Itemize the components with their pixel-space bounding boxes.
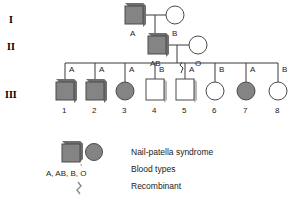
legend-affected-square — [62, 144, 80, 162]
individual-III-3-blood-type: A — [129, 65, 135, 74]
individual-I-1-blood-type: A — [130, 29, 136, 38]
individual-III-2-number: 2 — [92, 106, 97, 115]
individual-III-6-number: 6 — [212, 106, 217, 115]
legend-entry-recombinant: Recombinant — [131, 181, 182, 191]
individual-I-1-square — [125, 6, 143, 24]
legend-recombinant-squiggle-icon — [77, 182, 81, 194]
individual-III-3-circle — [116, 82, 134, 100]
individual-III-7-blood-type: A — [250, 65, 256, 74]
individual-III-6-circle — [206, 82, 224, 100]
individual-I-2-blood-type: B — [172, 29, 177, 38]
individual-III-7: A 7 — [237, 63, 256, 115]
individual-III-4: B 4 — [146, 63, 167, 115]
individual-III-3: A 3 — [116, 63, 135, 115]
individual-II-1-square — [148, 36, 166, 54]
individual-III-1-square — [56, 82, 74, 100]
individual-III-1-number: 1 — [62, 106, 67, 115]
individual-III-8-blood-type: B — [282, 65, 287, 74]
individual-III-4-number: 4 — [152, 106, 157, 115]
individual-III-8-number: 8 — [275, 106, 280, 115]
recombinant-squiggle-icon — [180, 62, 183, 73]
legend-affected-circle — [86, 144, 103, 161]
individual-III-2: A 2 — [86, 63, 107, 115]
generation-label-I: I — [9, 14, 13, 25]
individual-III-6: B 6 — [206, 63, 224, 115]
legend-entry-blood-types: Blood types — [131, 164, 175, 174]
pedigree-diagram: I II III A B AB O A 1 — [0, 0, 302, 202]
individual-III-6-blood-type: B — [219, 65, 224, 74]
individual-III-2-blood-type: A — [99, 65, 105, 74]
generation-label-III: III — [5, 89, 17, 100]
individual-III-8-circle — [269, 82, 287, 100]
individual-III-4-square — [146, 79, 164, 100]
individual-I-2: B — [166, 6, 184, 38]
legend: , A, AB, B, O Nail-patella syndrome Bloo… — [46, 141, 213, 194]
individual-III-3-number: 3 — [122, 106, 127, 115]
individual-III-8: B 8 — [269, 63, 287, 115]
pedigree-figure: I II III A B AB O A 1 — [0, 0, 302, 202]
individual-I-2-circle — [166, 6, 184, 24]
legend-entry-nail-patella: Nail-patella syndrome — [131, 147, 213, 157]
legend-blood-types-label: A, AB, B, O — [46, 169, 86, 178]
individual-III-5-number: 5 — [182, 106, 187, 115]
individual-III-1: A 1 — [56, 63, 77, 115]
legend-symbol-separator: , — [80, 158, 82, 167]
individual-III-5-square — [176, 79, 194, 100]
generation-label-II: II — [7, 41, 15, 52]
individual-III-5: A 5 — [176, 62, 197, 115]
individual-III-2-square — [86, 82, 104, 100]
individual-III-1-blood-type: A — [69, 65, 75, 74]
individual-III-7-circle — [237, 82, 255, 100]
individual-I-1: A — [125, 3, 146, 38]
legend-symbol-affected: , — [62, 141, 103, 167]
individual-III-5-blood-type: A — [189, 65, 195, 74]
individual-III-4-blood-type: B — [159, 65, 164, 74]
individual-III-7-number: 7 — [243, 106, 248, 115]
individual-II-2-circle — [189, 36, 207, 54]
